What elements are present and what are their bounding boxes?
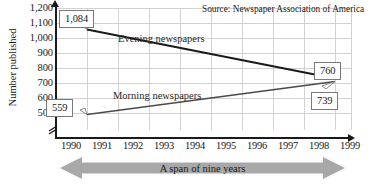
callout-559: 559 bbox=[46, 99, 73, 117]
x-axis-title: A span of nine years bbox=[60, 155, 345, 181]
callout-1084: 1,084 bbox=[59, 10, 94, 28]
callout-760: 760 bbox=[314, 62, 341, 80]
line-chart: Number published 1,200 1,100 1,000 900 8… bbox=[0, 0, 380, 184]
series-label-morning: Morning newspapers bbox=[113, 90, 201, 101]
source-note: Source: Newspaper Association of America bbox=[202, 4, 364, 15]
span-arrow: A span of nine years bbox=[60, 155, 345, 181]
callout-739: 739 bbox=[311, 92, 338, 110]
series-label-evening: Evening newspapers bbox=[118, 33, 205, 44]
callout-tail-559 bbox=[80, 108, 87, 115]
